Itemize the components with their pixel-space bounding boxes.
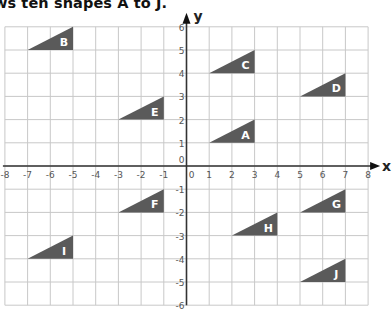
y-tick-label: 0: [179, 155, 185, 165]
x-tick-label: 1: [206, 170, 212, 180]
x-tick-label: -2: [137, 170, 146, 180]
shape-label: J: [333, 268, 338, 281]
x-tick-label: 7: [343, 170, 349, 180]
x-tick-label: -6: [46, 170, 55, 180]
x-tick-label: 4: [274, 170, 280, 180]
x-tick-label: -8: [0, 170, 9, 180]
x-tick-label: -1: [159, 170, 168, 180]
y-tick-label: 2: [179, 116, 185, 126]
y-axis-label: y: [194, 8, 203, 24]
shape-label: G: [332, 198, 341, 211]
shape-label: I: [62, 245, 66, 258]
shape-label: E: [151, 106, 159, 119]
x-axis-arrow-icon: [370, 162, 380, 170]
y-tick-label: -3: [176, 232, 185, 242]
coordinate-grid: xy -8-7-6-5-4-3-2-1012345678-6-5-4-3-2-1…: [0, 0, 392, 310]
shape-label: D: [332, 82, 341, 95]
y-tick-label: -6: [176, 301, 185, 310]
y-tick-label: -4: [176, 255, 185, 265]
y-tick-label: 1: [179, 139, 185, 149]
x-tick-label: 5: [297, 170, 303, 180]
y-tick-label: 3: [179, 92, 185, 102]
y-tick-label: -1: [176, 185, 185, 195]
shape-label: A: [241, 129, 250, 142]
x-tick-label: -5: [69, 170, 78, 180]
y-tick-label: -2: [176, 208, 185, 218]
x-tick-label: 2: [229, 170, 235, 180]
x-tick-label: -4: [91, 170, 100, 180]
y-tick-label: -5: [176, 278, 185, 288]
x-tick-label: -3: [114, 170, 123, 180]
y-tick-label: 6: [179, 23, 185, 33]
x-tick-label: 6: [320, 170, 326, 180]
x-tick-label: 0: [189, 170, 195, 180]
shape-label: H: [264, 222, 273, 235]
shape-label: C: [242, 59, 250, 72]
axes: xy: [3, 8, 391, 305]
shape-label: F: [151, 198, 159, 211]
y-tick-label: 5: [179, 46, 185, 56]
x-tick-label: 8: [365, 170, 371, 180]
x-axis-label: x: [382, 158, 391, 174]
y-tick-label: 4: [179, 69, 185, 79]
shape-label: B: [60, 36, 68, 49]
x-tick-label: 3: [252, 170, 258, 180]
x-tick-label: -7: [23, 170, 32, 180]
